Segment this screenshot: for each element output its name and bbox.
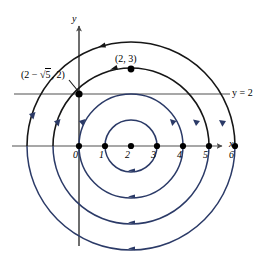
line-label-y2: y = 2 xyxy=(232,88,253,98)
x-tick-label-4: 4 xyxy=(177,150,182,160)
x-tick-label-6: 6 xyxy=(229,150,234,160)
point-intersection xyxy=(75,90,82,97)
x-tick-label-5: 5 xyxy=(203,150,208,160)
y-axis-label: y xyxy=(72,14,76,24)
leader-line xyxy=(69,80,78,91)
point-label-intersection: (2 − √5, 2) xyxy=(21,70,65,80)
x-tick-label-2: 2 xyxy=(125,150,130,160)
sqrt-icon: √5 xyxy=(40,70,52,80)
coordinate-plot xyxy=(0,0,261,258)
sqrt-radicand: 5 xyxy=(45,68,51,80)
point-label-2-3: (2, 3) xyxy=(115,54,137,64)
x-tick-label-3: 3 xyxy=(151,150,156,160)
x-tick-label-0: 0 xyxy=(73,150,78,160)
intersection-suffix: , 2) xyxy=(51,69,64,80)
point-2-3 xyxy=(128,66,135,73)
math-figure: 0 1 2 3 4 5 6 x y y = 2 (2, 3) (2 − √5, … xyxy=(0,0,261,258)
x-tick-label-1: 1 xyxy=(99,150,104,160)
intersection-prefix: (2 − xyxy=(21,69,40,80)
x-axis-label: x xyxy=(229,139,233,149)
